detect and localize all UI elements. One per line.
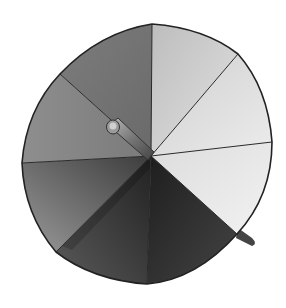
spinner-illustration [0,0,286,308]
spinner-graphic [0,0,286,308]
